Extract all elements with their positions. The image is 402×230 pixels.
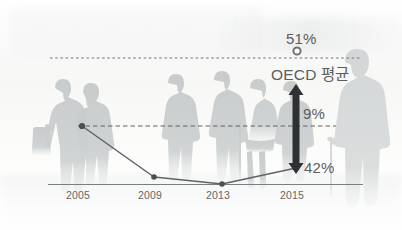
oecd-value-label: 51% bbox=[286, 30, 317, 47]
data-point-2005 bbox=[79, 123, 85, 129]
data-point-2013 bbox=[219, 181, 225, 187]
chart-overlay bbox=[0, 0, 402, 230]
x-tick-label-2015: 2015 bbox=[280, 189, 304, 201]
gap-arrow bbox=[289, 84, 304, 174]
data-point-2009 bbox=[151, 174, 157, 180]
oecd-point-marker bbox=[293, 47, 300, 54]
oecd-average-label: OECD 평균 bbox=[271, 62, 350, 84]
infographic-chart: 51% OECD 평균 9% 42% 2005 2009 2013 2015 bbox=[0, 0, 402, 230]
latest-value-label: 42% bbox=[304, 159, 335, 176]
x-tick-label-2005: 2005 bbox=[66, 189, 90, 201]
x-tick-label-2013: 2013 bbox=[206, 189, 230, 201]
gap-label: 9% bbox=[303, 105, 325, 122]
x-tick-label-2009: 2009 bbox=[138, 189, 162, 201]
data-line bbox=[82, 126, 296, 184]
